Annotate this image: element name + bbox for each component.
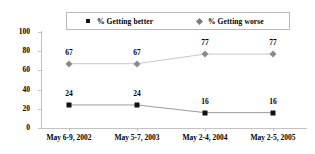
data-point-getting-better[interactable] — [135, 102, 140, 107]
data-label: 67 — [54, 49, 84, 57]
data-label: 16 — [190, 98, 220, 106]
data-label: 16 — [258, 98, 288, 106]
data-point-getting-better[interactable] — [67, 102, 72, 107]
data-label: 77 — [258, 39, 288, 47]
data-label: 24 — [54, 90, 84, 98]
data-label: 67 — [122, 49, 152, 57]
data-label: 77 — [190, 39, 220, 47]
data-point-getting-better[interactable] — [203, 110, 208, 115]
line-chart: % Getting better % Getting worse 100 80 … — [0, 0, 315, 154]
line-getting-worse — [69, 54, 273, 64]
series-lines — [0, 0, 315, 154]
line-getting-better — [69, 105, 273, 113]
data-point-getting-better[interactable] — [271, 110, 276, 115]
data-label: 24 — [122, 90, 152, 98]
